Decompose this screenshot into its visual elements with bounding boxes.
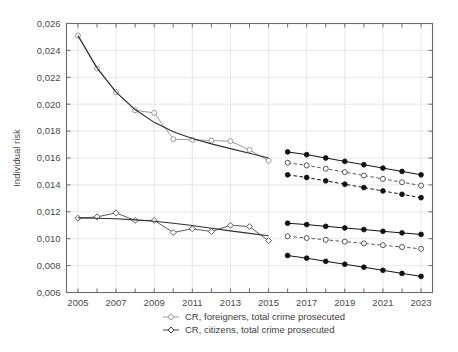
data-point-marker <box>400 231 405 236</box>
data-point-marker <box>361 185 366 190</box>
y-tick-label: 0,018 <box>37 125 61 136</box>
data-point-marker <box>247 147 252 152</box>
data-point-marker <box>380 176 385 181</box>
data-point-marker <box>381 189 386 194</box>
data-point-marker <box>342 170 347 175</box>
y-tick-label: 0,014 <box>37 179 61 190</box>
x-tick-label: 2009 <box>144 297 165 308</box>
data-point-marker <box>304 163 309 168</box>
data-point-marker <box>419 183 424 188</box>
x-tick-label: 2011 <box>182 297 202 308</box>
legend-item-0[interactable]: CR, foreigners, total crime prosecuted <box>163 311 345 322</box>
data-point-marker <box>419 172 424 177</box>
data-point-marker <box>285 150 290 155</box>
data-point-marker <box>419 195 424 200</box>
data-point-marker <box>266 158 271 163</box>
y-axis-title: Individual risk <box>11 129 22 187</box>
data-point-marker <box>342 159 347 164</box>
data-point-marker <box>323 156 328 161</box>
data-point-marker <box>419 232 424 237</box>
y-tick-label: 0,026 <box>37 18 61 29</box>
data-point-marker <box>361 227 366 232</box>
data-point-marker <box>304 152 309 157</box>
x-tick-label: 2005 <box>67 297 88 308</box>
data-point-marker <box>169 315 174 320</box>
data-point-marker <box>400 180 405 185</box>
data-point-marker <box>400 192 405 197</box>
data-point-marker <box>171 137 176 142</box>
data-point-marker <box>361 162 366 167</box>
y-tick-label: 0,006 <box>37 287 61 298</box>
data-point-marker <box>323 224 328 229</box>
data-point-marker <box>228 139 233 144</box>
data-point-marker <box>381 268 386 273</box>
y-tick-label: 0,010 <box>37 233 61 244</box>
data-point-marker <box>304 236 309 241</box>
data-point-marker <box>342 239 347 244</box>
data-point-marker <box>342 182 347 187</box>
x-tick-label: 2021 <box>372 297 393 308</box>
data-point-marker <box>381 229 386 234</box>
legend-item-1[interactable]: CR, citizens, total crime prosecuted <box>163 324 334 335</box>
data-point-marker <box>380 243 385 248</box>
data-point-marker <box>304 222 309 227</box>
data-point-marker <box>361 241 366 246</box>
data-point-marker <box>342 262 347 267</box>
data-point-marker <box>285 234 290 239</box>
data-point-marker <box>209 138 214 143</box>
y-tick-label: 0,020 <box>37 99 61 110</box>
data-point-marker <box>400 271 405 276</box>
data-point-marker <box>323 166 328 171</box>
data-point-marker <box>304 175 309 180</box>
data-point-marker <box>419 246 424 251</box>
data-point-marker <box>285 253 290 258</box>
x-tick-label: 2015 <box>258 297 279 308</box>
data-point-marker <box>342 226 347 231</box>
data-point-marker <box>361 173 366 178</box>
legend-label: CR, citizens, total crime prosecuted <box>185 324 334 335</box>
data-point-marker <box>304 256 309 261</box>
data-point-marker <box>323 237 328 242</box>
y-axis-title-text: Individual risk <box>11 129 22 187</box>
x-tick-label: 2017 <box>296 297 317 308</box>
chart-root: 0,0060,0080,0100,0120,0140,0160,0180,020… <box>0 0 458 352</box>
data-point-marker <box>285 160 290 165</box>
data-point-marker <box>285 221 290 226</box>
legend-label: CR, foreigners, total crime prosecuted <box>185 311 345 322</box>
y-tick-label: 0,008 <box>37 260 61 271</box>
data-point-marker <box>285 172 290 177</box>
y-tick-label: 0,016 <box>37 152 61 163</box>
x-tick-label: 2023 <box>410 297 431 308</box>
x-tick-label: 2007 <box>105 297 126 308</box>
data-point-marker <box>381 166 386 171</box>
y-tick-label: 0,012 <box>37 206 61 217</box>
individual-risk-chart: 0,0060,0080,0100,0120,0140,0160,0180,020… <box>0 0 458 352</box>
data-point-marker <box>152 110 157 115</box>
data-point-marker <box>361 265 366 270</box>
y-tick-label: 0,024 <box>37 45 61 56</box>
data-point-marker <box>419 274 424 279</box>
y-tick-label: 0,022 <box>37 72 61 83</box>
data-point-marker <box>323 178 328 183</box>
data-point-marker <box>323 259 328 264</box>
data-point-marker <box>400 245 405 250</box>
x-tick-label: 2013 <box>220 297 241 308</box>
data-point-marker <box>400 169 405 174</box>
x-tick-label: 2019 <box>334 297 355 308</box>
